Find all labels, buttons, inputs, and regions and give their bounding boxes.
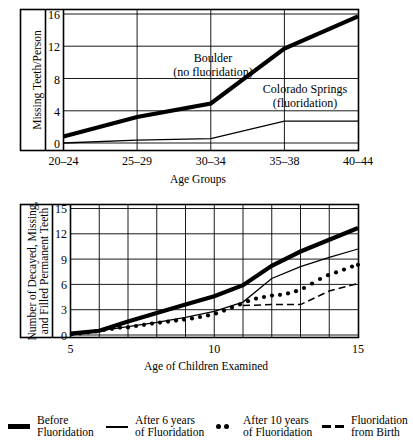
chart2-xtick-15: 15	[352, 342, 364, 356]
chart2-ytick-15: 15	[55, 202, 67, 216]
chart1-annotation-boulder-line2: (no fluoridation)	[173, 65, 253, 79]
legend-item-before-fluoridation: Before Fluoridation	[6, 414, 94, 439]
legend-item-after-10-years: After 10 years of Fluoridation	[212, 414, 312, 439]
fluoridation-figure: Missing Teeth/Person 16 12 8 4 0 Boulder…	[0, 0, 413, 447]
chart2-ytick-3: 3	[61, 303, 67, 317]
legend-label-after-10-years-line1: After 10 years	[243, 414, 309, 426]
legend-label-before-fluoridation-line1: Before	[37, 414, 68, 426]
chart2-xtick-5: 5	[68, 342, 74, 356]
chart1-annotation-colorado-springs-line1: Colorado Springs	[263, 82, 348, 96]
legend-marker-dotted-line	[212, 419, 238, 433]
chart1-ytick-8: 8	[54, 73, 60, 87]
chart2-ytick-0: 0	[61, 329, 67, 343]
chart2-canvas: Number of Decayed, Missing, and Filled P…	[0, 190, 413, 408]
legend-item-fluoridation-from-birth: Fluoridation from Birth	[320, 414, 408, 439]
legend-label-after-6-years-line1: After 6 years	[135, 414, 195, 426]
chart-legend: Before Fluoridation After 6 years of Flu…	[0, 408, 413, 447]
chart1-y-axis-title: Missing Teeth/Person	[31, 30, 44, 130]
chart2-y-axis-title-line2: and Filled Permanent Teeth	[38, 208, 50, 335]
chart1-canvas: Missing Teeth/Person 16 12 8 4 0 Boulder…	[0, 0, 413, 190]
chart1-ytick-4: 4	[54, 105, 60, 119]
chart2-ytick-9: 9	[61, 253, 67, 267]
chart1-xtick-30-34: 30–34	[196, 154, 226, 168]
legend-label-after-10-years-line2: of Fluoridation	[243, 426, 312, 438]
chart1-ytick-0: 0	[54, 137, 60, 151]
chart1-ytick-12: 12	[48, 40, 60, 54]
legend-marker-dashed-line	[320, 419, 346, 433]
legend-marker-thin-line	[104, 419, 130, 433]
chart1-xtick-20-24: 20–24	[49, 154, 79, 168]
legend-label-before-fluoridation-line2: Fluoridation	[37, 426, 94, 438]
chart1-xtick-35-38: 35–38	[269, 154, 299, 168]
chart2-xtick-10: 10	[208, 342, 220, 356]
legend-label-after-6-years-line2: of Fluoridation	[135, 426, 204, 438]
chart1-annotation-boulder-line1: Boulder	[194, 51, 233, 65]
chart1-annotation-colorado-springs-line2: (fluoridation)	[273, 96, 338, 110]
legend-label-fluoridation-from-birth-line2: from Birth	[351, 426, 400, 438]
chart-missing-teeth-per-person: Missing Teeth/Person 16 12 8 4 0 Boulder…	[0, 0, 413, 190]
legend-marker-thick-line	[6, 419, 32, 433]
chart1-x-axis-title: Age Groups	[170, 173, 226, 186]
chart2-x-axis-title: Age of Children Examined	[144, 360, 268, 373]
legend-label-fluoridation-from-birth-line1: Fluoridation	[351, 414, 408, 426]
chart1-outer-frame	[21, 10, 359, 151]
chart1-xtick-25-29: 25–29	[122, 154, 152, 168]
chart1-ytick-16: 16	[48, 8, 60, 22]
legend-item-after-6-years: After 6 years of Fluoridation	[104, 414, 204, 439]
chart-dmf-teeth-by-age: Number of Decayed, Missing, and Filled P…	[0, 190, 413, 408]
chart1-xtick-40-44: 40–44	[343, 154, 373, 168]
chart2-ytick-12: 12	[55, 227, 67, 241]
chart2-ytick-6: 6	[61, 278, 67, 292]
